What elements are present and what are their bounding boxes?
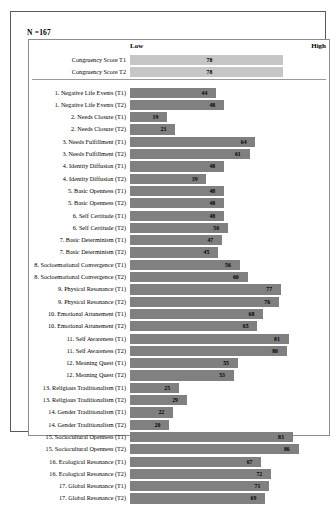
bar-row: 4. Identity Diffusion (T1)48	[29, 160, 329, 172]
bar-row: 11. Self Awareness (T2)80	[29, 345, 329, 357]
bar-track: 68	[130, 309, 326, 319]
bar-row: 8. Socioemotional Convergence (T1)56	[29, 259, 329, 271]
bar-row-label: 17. Global Resonance (T2)	[29, 492, 128, 504]
bar-value-label: 48	[209, 198, 215, 208]
bar-row: Congruency Score T178	[29, 54, 329, 66]
bar-track: 61	[130, 149, 326, 159]
bar-track: 69	[130, 493, 326, 503]
bar-row: 5. Basic Openness (T2)48	[29, 197, 329, 209]
bar-row: 3. Needs Fulfillment (T1)64	[29, 136, 329, 148]
bar-track: 76	[130, 297, 326, 307]
bar-track: 71	[130, 481, 326, 491]
bar-row: 6. Self Certitude (T1)48	[29, 210, 329, 222]
bar	[130, 297, 279, 307]
bar-value-label: 71	[254, 481, 260, 491]
bar	[130, 149, 250, 159]
bar-value-label: 76	[264, 297, 270, 307]
bar-value-label: 60	[233, 272, 239, 282]
bar-value-label: 86	[284, 444, 290, 454]
bar-row: 14. Gender Traditionalism (T2)20	[29, 419, 329, 431]
bar-track: 77	[130, 284, 326, 294]
bar-track: 86	[130, 444, 326, 454]
bar-row: 15. Sociocultural Openness (T1)83	[29, 431, 329, 443]
bar-row-label: 2. Needs Closure (T1)	[29, 111, 128, 123]
bar-value-label: 44	[202, 88, 208, 98]
bar-row: Congruency Score T278	[29, 66, 329, 78]
bar-track: 39	[130, 174, 326, 184]
bar-value-label: 50	[213, 223, 219, 233]
bar-value-label: 19	[153, 112, 159, 122]
bar-row-label: 5. Basic Openness (T2)	[29, 197, 128, 209]
bar-row-label: 13. Religious Traditionalism (T2)	[29, 394, 128, 406]
bar-row: 10. Emotional Attunement (T1)68	[29, 308, 329, 320]
bar	[130, 321, 257, 331]
bar-value-label: 48	[209, 161, 215, 171]
bar-track: 47	[130, 235, 326, 245]
bar-track: 83	[130, 432, 326, 442]
group-gap	[29, 80, 329, 87]
bar-row: 13. Religious Traditionalism (T2)29	[29, 394, 329, 406]
bar-value-label: 67	[247, 457, 253, 467]
bar-track: 81	[130, 334, 326, 344]
bar-row-label: 13. Religious Traditionalism (T1)	[29, 382, 128, 394]
bar-value-label: 72	[256, 469, 262, 479]
bar-track: 23	[130, 124, 326, 134]
bar-row-label: 8. Socioemotional Convergence (T2)	[29, 271, 128, 283]
bar-track: 48	[130, 100, 326, 110]
bar-row-label: 7. Basic Determinism (T2)	[29, 246, 128, 258]
bar-track: 78	[130, 55, 326, 65]
bar-value-label: 48	[209, 100, 215, 110]
figure-outer-frame: N =167 Low High Congruency Score T178Con…	[10, 11, 326, 432]
bar-row: 9. Physical Resonance (T2)76	[29, 296, 329, 308]
bar-row: 5. Basic Openness (T1)48	[29, 185, 329, 197]
bar-track: 56	[130, 260, 326, 270]
bar-track: 19	[130, 112, 326, 122]
bar-row: 10. Emotional Attunement (T2)65	[29, 320, 329, 332]
bar-track: 48	[130, 211, 326, 221]
bar-track: 48	[130, 198, 326, 208]
bar-row: 2. Needs Closure (T1)19	[29, 111, 329, 123]
bar-track: 72	[130, 469, 326, 479]
chart-plot-area: Low High Congruency Score T178Congruency…	[29, 40, 329, 435]
bar-row-label: 2. Needs Closure (T2)	[29, 123, 128, 135]
bar-track: 25	[130, 383, 326, 393]
bar-value-label: 22	[158, 407, 164, 417]
bar-row: 9. Physical Resonance (T1)77	[29, 283, 329, 295]
bar-value-label: 55	[223, 358, 229, 368]
bar-value-label: 48	[209, 186, 215, 196]
bar-value-label: 53	[219, 370, 225, 380]
bar	[130, 407, 173, 417]
bar-row-label: 9. Physical Resonance (T1)	[29, 283, 128, 295]
sample-size-label: N =167	[27, 28, 51, 37]
bar-row: 7. Basic Determinism (T1)47	[29, 234, 329, 246]
bar-value-label: 20	[155, 420, 161, 430]
bar-row-label: 12. Meaning Quest (T1)	[29, 357, 128, 369]
bar-value-label: 56	[225, 260, 231, 270]
bar-value-label: 23	[160, 124, 166, 134]
bar-row-label: 16. Ecological Resonance (T2)	[29, 468, 128, 480]
bar	[130, 334, 289, 344]
bar-row: 7. Basic Determinism (T2)45	[29, 246, 329, 258]
bar-track: 53	[130, 370, 326, 380]
bar-track: 67	[130, 457, 326, 467]
bar-value-label: 47	[207, 235, 213, 245]
bar-track: 48	[130, 161, 326, 171]
bar-value-label: 78	[207, 55, 213, 65]
bar	[130, 284, 281, 294]
bar-row-label: 5. Basic Openness (T1)	[29, 185, 128, 197]
bar	[130, 481, 269, 491]
bar-row-label: 15. Sociocultural Openness (T2)	[29, 443, 128, 455]
bar-row: 17. Global Resonance (T2)69	[29, 492, 329, 504]
bar-row: 15. Sociocultural Openness (T2)86	[29, 443, 329, 455]
bar-row-label: 14. Gender Traditionalism (T2)	[29, 419, 128, 431]
bar-row-label: 4. Identity Diffusion (T2)	[29, 173, 128, 185]
bar	[130, 137, 255, 147]
axis-label-high: High	[311, 42, 326, 50]
bar	[130, 358, 238, 368]
bar-value-label: 80	[272, 346, 278, 356]
bar-row: 13. Religious Traditionalism (T1)25	[29, 382, 329, 394]
bar-track: 45	[130, 247, 326, 257]
bar	[130, 395, 187, 405]
bar-track: 50	[130, 223, 326, 233]
